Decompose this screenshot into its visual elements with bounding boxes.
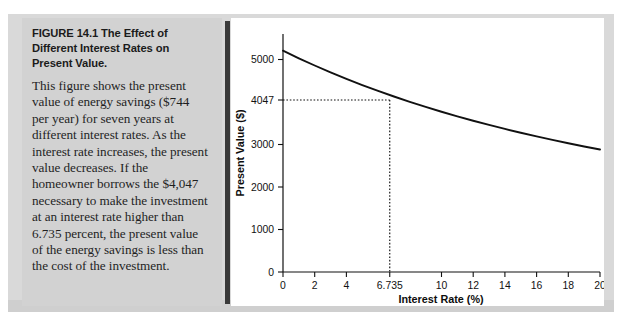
present-value-chart: 010002000300040475000 0246.7351012141618… — [231, 18, 604, 306]
caption-chart-divider — [225, 21, 230, 304]
y-tick-label: 1000 — [251, 224, 274, 235]
chart-panel: 010002000300040475000 0246.7351012141618… — [231, 18, 604, 306]
figure-caption-panel: FIGURE 14.1 The Effect of Different Inte… — [22, 18, 222, 306]
x-tick-label: 18 — [563, 280, 575, 291]
y-tick-label: 5000 — [251, 54, 274, 65]
x-tick-label: 10 — [436, 280, 448, 291]
x-tick-label: 2 — [312, 280, 318, 291]
present-value-curve — [283, 51, 600, 150]
x-tick-label: 0 — [280, 280, 286, 291]
y-tick-label: 2000 — [251, 182, 274, 193]
x-axis-ticks: 0246.735101214161820 — [280, 272, 604, 291]
x-tick-label: 16 — [531, 280, 543, 291]
x-tick-label: 20 — [594, 280, 604, 291]
y-tick-label: 0 — [268, 267, 274, 278]
x-tick-label: 12 — [467, 280, 479, 291]
figure-number: FIGURE 14.1 — [32, 27, 98, 39]
x-tick-label: 4 — [344, 280, 350, 291]
figure-screenshot: FIGURE 14.1 The Effect of Different Inte… — [0, 0, 624, 326]
breakeven-guide-lines — [283, 100, 390, 272]
x-axis-title: Interest Rate (%) — [398, 293, 484, 305]
x-tick-label: 6.735 — [377, 280, 403, 291]
y-axis-title: Present Value ($) — [234, 109, 246, 196]
y-axis-ticks: 010002000300040475000 — [251, 54, 283, 278]
figure-title: FIGURE 14.1 The Effect of Different Inte… — [32, 26, 208, 71]
y-tick-label: 4047 — [251, 95, 274, 106]
x-tick-label: 14 — [499, 280, 511, 291]
chart-axes — [283, 34, 600, 272]
figure-body-text: This figure shows the present value of e… — [32, 78, 208, 275]
y-tick-label: 3000 — [251, 139, 274, 150]
